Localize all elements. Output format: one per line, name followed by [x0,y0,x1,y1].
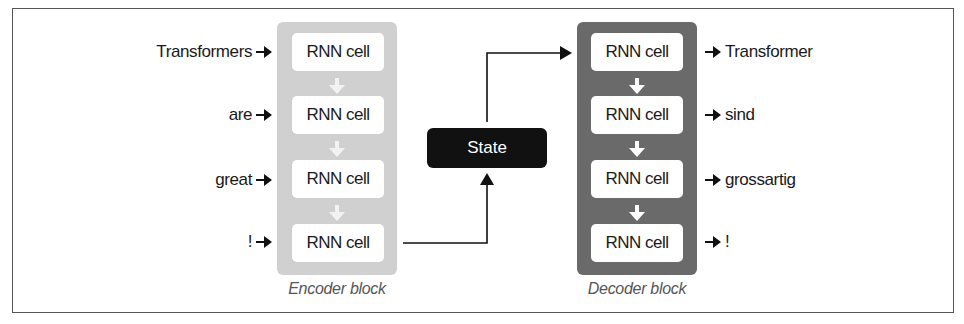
output-token: grossartig [725,170,796,190]
output-token: ! [725,232,729,252]
decoder-rnn-cell-1: RNN cell [591,96,683,134]
arrow-up-icon [480,173,494,185]
decoder-output-0: Transformer [705,42,813,62]
decoder-output-3: ! [705,232,729,252]
arrow-right-icon [705,108,721,122]
decoder-output-1: sind [705,105,755,125]
decoder-block: RNN cell RNN cell RNN cell RNN cell [577,22,697,275]
arrow-right-icon [705,173,721,187]
arrow-right-icon [705,235,721,249]
decoder-rnn-cell-2: RNN cell [591,160,683,198]
arrow-right-icon [705,45,721,59]
decoder-rnn-cell-0: RNN cell [591,33,683,71]
arrow-down-icon [629,212,645,221]
decoder-caption: Decoder block [557,280,717,298]
decoder-output-2: grossartig [705,170,796,190]
arrow-down-icon [629,85,645,94]
output-token: Transformer [725,42,813,62]
arrow-down-icon [629,148,645,157]
decoder-rnn-cell-3: RNN cell [591,224,683,262]
state-box: State [427,128,547,168]
arrow-right-icon [560,46,572,60]
output-token: sind [725,105,755,125]
